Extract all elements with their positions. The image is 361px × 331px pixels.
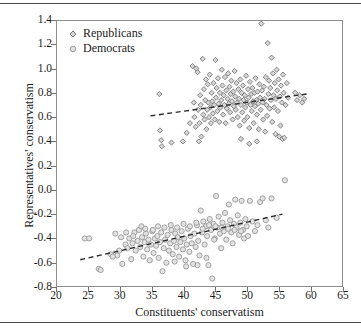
legend-label: Democrats <box>83 41 135 56</box>
page-rule-top <box>0 3 361 4</box>
data-point-circle <box>151 250 156 255</box>
data-point-diamond <box>208 121 213 126</box>
data-point-circle <box>159 230 164 235</box>
data-point-diamond <box>247 141 252 146</box>
data-point-circle <box>146 237 151 242</box>
data-point-diamond <box>272 81 277 86</box>
data-point-circle <box>141 254 146 259</box>
x-tick-mark <box>279 287 280 292</box>
data-point-circle <box>226 226 231 231</box>
data-point-circle <box>197 253 202 258</box>
data-point-diamond <box>224 88 229 93</box>
y-tick-mark <box>51 20 56 21</box>
data-point-diamond <box>263 74 268 79</box>
data-point-diamond <box>257 82 262 87</box>
chart-legend: RepublicansDemocrats <box>66 26 142 56</box>
y-tick-mark <box>51 238 56 239</box>
data-point-diamond <box>247 79 252 84</box>
data-point-diamond <box>219 67 224 72</box>
data-point-diamond <box>180 139 185 144</box>
data-point-circle <box>150 227 155 232</box>
data-point-diamond <box>236 87 241 92</box>
data-point-diamond <box>243 105 248 110</box>
data-point-circle <box>219 246 224 251</box>
data-point-diamond <box>209 90 214 95</box>
data-point-diamond <box>228 110 233 115</box>
data-point-circle <box>98 267 103 272</box>
data-point-circle <box>117 248 122 253</box>
data-point-diamond <box>198 93 203 98</box>
x-tick-mark <box>152 287 153 292</box>
data-point-diamond <box>258 107 263 112</box>
x-axis-title: Constituents' conservatism <box>56 305 343 320</box>
y-tick-mark <box>51 214 56 215</box>
data-point-circle <box>160 269 165 274</box>
data-point-diamond <box>197 121 202 126</box>
data-point-diamond <box>169 140 174 145</box>
legend-item-republicans[interactable]: Republicans <box>66 26 142 41</box>
data-point-circle <box>205 233 210 238</box>
data-point-diamond <box>217 119 222 124</box>
data-point-diamond <box>247 125 252 130</box>
data-point-diamond <box>202 117 207 122</box>
y-tick-label: 1.2 <box>14 38 52 49</box>
data-point-circle <box>184 264 189 269</box>
data-point-circle <box>233 197 238 202</box>
data-point-diamond <box>272 105 277 110</box>
data-point-circle <box>193 244 198 249</box>
data-point-diamond <box>201 87 206 92</box>
data-point-circle <box>260 196 265 201</box>
data-point-circle <box>129 256 134 261</box>
x-tick-mark <box>247 287 248 292</box>
data-point-diamond <box>237 123 242 128</box>
data-point-diamond <box>276 77 281 82</box>
data-point-diamond <box>266 78 271 83</box>
data-point-circle <box>176 254 181 259</box>
y-tick-mark <box>51 263 56 264</box>
data-point-circle <box>196 238 201 243</box>
data-point-diamond <box>229 78 234 83</box>
circle-icon <box>66 43 80 55</box>
data-point-circle <box>187 249 192 254</box>
data-point-diamond <box>215 76 220 81</box>
data-point-diamond <box>212 117 217 122</box>
data-point-diamond <box>159 144 164 149</box>
data-point-circle <box>247 198 252 203</box>
data-point-circle <box>212 237 217 242</box>
data-point-diamond <box>213 57 218 62</box>
data-point-circle <box>235 213 240 218</box>
data-point-circle <box>172 259 177 264</box>
data-point-diamond <box>191 100 196 105</box>
x-tick-mark <box>215 287 216 292</box>
data-point-circle <box>124 230 129 235</box>
data-point-diamond <box>281 90 286 95</box>
y-tick-label: -0.6 <box>14 257 52 268</box>
data-point-circle <box>179 229 184 234</box>
data-point-circle <box>222 210 227 215</box>
data-point-circle <box>201 219 206 224</box>
data-point-circle <box>213 193 218 198</box>
data-point-circle <box>181 221 186 226</box>
series-democrats <box>82 178 287 282</box>
data-point-circle <box>183 258 188 263</box>
legend-label: Republicans <box>83 26 142 41</box>
data-point-diamond <box>275 108 280 113</box>
data-point-diamond <box>206 114 211 119</box>
data-point-circle <box>131 233 136 238</box>
data-point-diamond <box>159 138 164 143</box>
y-tick-mark <box>51 93 56 94</box>
data-point-circle <box>232 227 237 232</box>
data-point-diamond <box>192 114 197 119</box>
y-tick-mark <box>51 141 56 142</box>
data-point-diamond <box>199 134 204 139</box>
legend-item-democrats[interactable]: Democrats <box>66 41 142 56</box>
data-point-diamond <box>278 123 283 128</box>
data-point-diamond <box>269 55 274 60</box>
data-point-circle <box>207 216 212 221</box>
data-point-circle <box>244 224 249 229</box>
data-point-circle <box>192 231 197 236</box>
data-point-diamond <box>238 136 243 141</box>
data-point-circle <box>224 237 229 242</box>
data-point-circle <box>195 263 200 268</box>
data-point-diamond <box>245 114 250 119</box>
